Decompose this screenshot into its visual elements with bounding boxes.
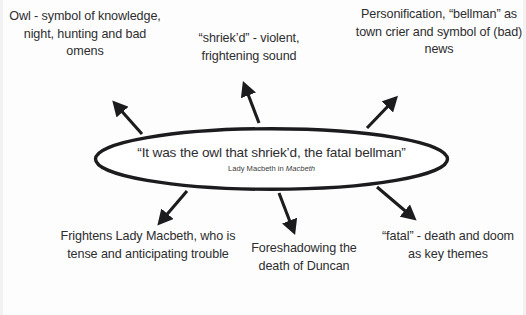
quote-attribution-work: Macbeth <box>286 164 315 173</box>
note-owl: Owl - symbol of knowledge, night, huntin… <box>9 8 161 61</box>
arrow-to-shriek-note <box>246 89 259 123</box>
quote-attribution-speaker: Lady Macbeth in <box>228 164 286 173</box>
quote-text: “It was the owl that shriek’d, the fatal… <box>137 145 405 161</box>
note-frightens: Frightens Lady Macbeth, who is tense and… <box>55 228 241 263</box>
central-quote-ellipse: “It was the owl that shriek’d, the fatal… <box>93 127 450 191</box>
arrow-to-bellman-note <box>367 102 392 128</box>
annotated-quote-diagram: Owl - symbol of knowledge, night, huntin… <box>0 0 526 315</box>
note-foreshadow: Foreshadowing the death of Duncan <box>239 240 369 275</box>
arrow-to-fatal-note <box>377 187 410 215</box>
quote-attribution: Lady Macbeth in Macbeth <box>228 164 315 174</box>
note-shriek: “shriek’d” - violent, frightening sound <box>171 30 327 65</box>
arrow-to-foreshadow-note <box>279 193 292 227</box>
note-fatal: “fatal” - death and doom as key themes <box>375 228 521 263</box>
note-bellman: Personification, “bellman” as town crier… <box>355 6 523 59</box>
arrow-to-frightens-note <box>163 191 187 219</box>
